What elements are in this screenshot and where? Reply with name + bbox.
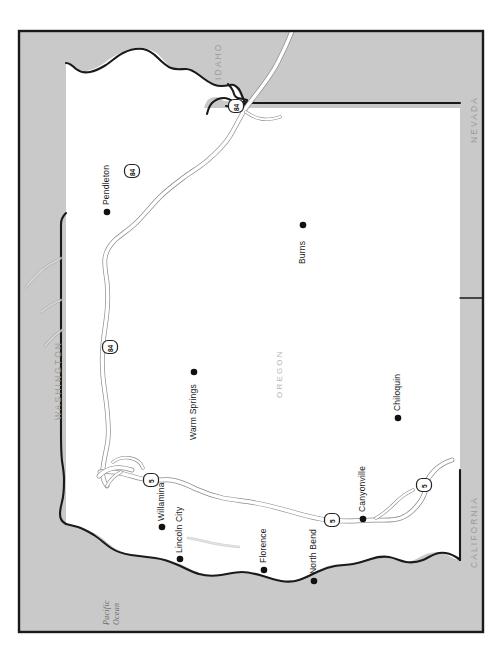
city-dot-lincoln-city[interactable] [177,556,184,563]
shield-badge-interstate-5-north[interactable] [144,474,159,487]
city-dot-canyonville[interactable] [360,516,367,523]
oregon-landmass [66,48,460,582]
shield-badge-interstate-84-north[interactable] [229,100,244,113]
city-dot-chiloquin[interactable] [395,415,402,422]
city-dot-warm-springs[interactable] [191,369,198,376]
shield-badge-interstate-84-columbia[interactable] [103,341,118,354]
city-dot-willamina[interactable] [159,524,166,531]
map-graphic [0,0,503,656]
city-dot-pendleton[interactable] [104,209,111,216]
shield-badge-interstate-5-canyonville[interactable] [325,514,340,527]
shield-badge-interstate-5-south[interactable] [417,479,432,492]
title-fragment [244,0,274,3]
map-container: IDAHONEVADAWASHINGTONCALIFORNIAOREGON Pe… [0,0,503,656]
shield-badge-interstate-84-pendleton[interactable] [125,165,140,178]
city-dot-florence[interactable] [261,567,268,574]
city-dot-north-bend[interactable] [311,578,318,585]
city-dot-burns[interactable] [300,222,307,229]
